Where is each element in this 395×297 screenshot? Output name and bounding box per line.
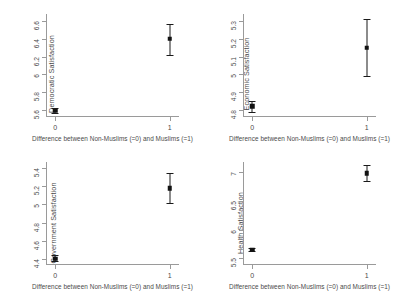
data-point	[168, 37, 173, 42]
error-bar-cap	[166, 203, 173, 204]
x-tick-label: 1	[365, 272, 369, 279]
y-tick-label: 6.4	[34, 39, 41, 48]
y-tick-label: 4.8	[34, 223, 41, 232]
chart-panel-2: Economic Satisfaction4.84.955.15.25.301D…	[197, 0, 395, 148]
y-tick-mark	[239, 21, 243, 22]
y-tick-label: 5	[231, 74, 238, 78]
y-tick-mark	[42, 74, 46, 75]
y-tick-mark	[239, 230, 243, 231]
error-bar-cap	[363, 165, 370, 166]
x-axis-label: Difference between Non-Muslims (=0) and …	[229, 283, 390, 290]
y-tick-label: 5.5	[231, 258, 238, 267]
y-tick-label: 6	[231, 230, 238, 234]
x-tick-mark	[55, 117, 56, 121]
x-tick-label: 0	[250, 124, 254, 131]
y-tick-mark	[42, 168, 46, 169]
data-point	[250, 104, 255, 109]
y-tick-label: 5.3	[231, 21, 238, 30]
y-tick-label: 5.2	[231, 39, 238, 48]
x-tick-mark	[367, 117, 368, 121]
data-point	[168, 186, 173, 191]
error-bar-cap	[52, 261, 59, 262]
y-tick-mark	[42, 39, 46, 40]
x-tick-label: 0	[250, 272, 254, 279]
multi-panel-figure: Democratic Satisfaction5.65.866.26.46.60…	[0, 0, 395, 297]
y-tick-mark	[239, 201, 243, 202]
error-bar-cap	[166, 24, 173, 25]
y-tick-mark	[42, 186, 46, 187]
y-tick-mark	[239, 74, 243, 75]
data-point	[53, 109, 58, 114]
error-bar-cap	[166, 173, 173, 174]
y-tick-mark	[239, 39, 243, 40]
x-tick-mark	[367, 265, 368, 269]
x-tick-mark	[252, 265, 253, 269]
y-tick-label: 6.2	[34, 57, 41, 66]
y-tick-mark	[42, 21, 46, 22]
data-point	[250, 247, 255, 252]
y-tick-mark	[239, 57, 243, 58]
y-tick-label: 5.1	[231, 57, 238, 66]
plot-area: 4.44.64.855.25.401Difference between Non…	[46, 162, 179, 265]
y-tick-label: 7	[231, 172, 238, 176]
error-bar-cap	[166, 55, 173, 56]
x-tick-mark	[170, 117, 171, 121]
y-tick-mark	[239, 172, 243, 173]
data-point	[53, 256, 58, 261]
y-tick-mark	[42, 223, 46, 224]
x-tick-label: 0	[53, 124, 57, 131]
y-tick-mark	[239, 258, 243, 259]
plot-area: 4.84.955.15.25.301Difference between Non…	[243, 14, 376, 117]
y-axis-line	[46, 14, 47, 117]
y-tick-label: 4.8	[231, 110, 238, 119]
y-tick-label: 5	[34, 204, 41, 208]
x-axis-line	[46, 116, 179, 117]
x-tick-label: 1	[168, 124, 172, 131]
x-axis-label: Difference between Non-Muslims (=0) and …	[229, 135, 390, 142]
plot-area: 5.566.5701Difference between Non-Muslims…	[243, 162, 376, 265]
error-bar-cap	[249, 112, 256, 113]
y-axis-line	[243, 162, 244, 265]
y-tick-label: 6	[34, 74, 41, 78]
y-tick-label: 5.6	[34, 110, 41, 119]
x-axis-label: Difference between Non-Muslims (=0) and …	[32, 135, 193, 142]
chart-panel-1: Democratic Satisfaction5.65.866.26.46.60…	[0, 0, 197, 148]
chart-panel-4: Health Satisfaction5.566.5701Difference …	[197, 148, 395, 297]
plot-area: 5.65.866.26.46.601Difference between Non…	[46, 14, 179, 117]
y-tick-label: 6.6	[34, 21, 41, 30]
y-tick-mark	[42, 204, 46, 205]
y-tick-mark	[239, 110, 243, 111]
chart-panel-3: Government Satisfaction4.44.64.855.25.40…	[0, 148, 197, 297]
x-axis-line	[46, 264, 179, 265]
y-tick-mark	[42, 241, 46, 242]
data-point	[365, 171, 370, 176]
y-tick-mark	[42, 57, 46, 58]
x-tick-label: 1	[365, 124, 369, 131]
x-tick-label: 0	[53, 272, 57, 279]
y-axis-line	[243, 14, 244, 117]
y-tick-mark	[239, 92, 243, 93]
error-bar-cap	[363, 181, 370, 182]
x-tick-mark	[252, 117, 253, 121]
y-tick-mark	[42, 259, 46, 260]
error-bar-cap	[249, 101, 256, 102]
x-tick-mark	[55, 265, 56, 269]
x-axis-label: Difference between Non-Muslims (=0) and …	[32, 283, 193, 290]
y-axis-line	[46, 162, 47, 265]
y-tick-label: 6.5	[231, 201, 238, 210]
y-tick-label: 4.6	[34, 241, 41, 250]
y-tick-mark	[42, 92, 46, 93]
x-tick-mark	[170, 265, 171, 269]
error-bar-cap	[52, 113, 59, 114]
x-axis-line	[243, 264, 376, 265]
y-tick-label: 4.9	[231, 92, 238, 101]
y-tick-mark	[42, 110, 46, 111]
x-tick-label: 1	[168, 272, 172, 279]
error-bar-cap	[363, 19, 370, 20]
y-tick-label: 5.8	[34, 92, 41, 101]
y-tick-label: 5.2	[34, 186, 41, 195]
error-bar-cap	[363, 76, 370, 77]
y-tick-label: 5.4	[34, 168, 41, 177]
y-tick-label: 4.4	[34, 259, 41, 268]
x-axis-line	[243, 116, 376, 117]
